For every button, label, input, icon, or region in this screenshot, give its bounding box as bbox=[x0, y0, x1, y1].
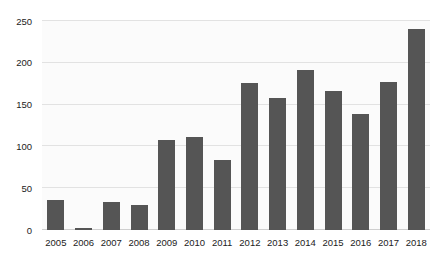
x-slot: 2016 bbox=[347, 232, 375, 250]
bar-slot bbox=[236, 21, 264, 230]
bar-slot bbox=[153, 21, 181, 230]
bar-slot bbox=[42, 21, 70, 230]
x-slot: 2015 bbox=[319, 232, 347, 250]
bar-2005 bbox=[47, 200, 64, 230]
bar-2013 bbox=[269, 98, 286, 230]
bar-2008 bbox=[131, 205, 148, 230]
x-slot: 2006 bbox=[70, 232, 98, 250]
y-axis: 050100150200250 bbox=[0, 21, 38, 230]
x-slot: 2008 bbox=[125, 232, 153, 250]
x-slot: 2005 bbox=[42, 232, 70, 250]
x-slot: 2011 bbox=[208, 232, 236, 250]
bar-slot bbox=[125, 21, 153, 230]
bar-2009 bbox=[158, 140, 175, 230]
x-tick-label: 2010 bbox=[184, 237, 205, 248]
y-tick-label: 100 bbox=[16, 142, 32, 152]
x-slot: 2007 bbox=[97, 232, 125, 250]
x-axis: 2005200620072008200920102011201220132014… bbox=[42, 232, 430, 250]
bar-slot bbox=[264, 21, 292, 230]
bar-2012 bbox=[241, 83, 258, 230]
x-tick-label: 2014 bbox=[295, 237, 316, 248]
bar-slot bbox=[319, 21, 347, 230]
x-tick-label: 2016 bbox=[350, 237, 371, 248]
x-tick-label: 2012 bbox=[239, 237, 260, 248]
bar-2017 bbox=[380, 82, 397, 230]
x-tick-label: 2018 bbox=[406, 237, 427, 248]
y-tick-label: 150 bbox=[16, 100, 32, 110]
x-slot: 2013 bbox=[264, 232, 292, 250]
bar-slot bbox=[208, 21, 236, 230]
x-tick-label: 2013 bbox=[267, 237, 288, 248]
x-slot: 2017 bbox=[375, 232, 403, 250]
bar-2018 bbox=[408, 29, 425, 230]
bar-2010 bbox=[186, 137, 203, 230]
x-slot: 2018 bbox=[402, 232, 430, 250]
bar-slot bbox=[375, 21, 403, 230]
x-tick-label: 2011 bbox=[212, 237, 232, 248]
bar-2016 bbox=[352, 114, 369, 230]
y-tick-label: 250 bbox=[16, 16, 32, 26]
x-tick-label: 2007 bbox=[101, 237, 122, 248]
bar-chart: 050100150200250 200520062007200820092010… bbox=[0, 0, 438, 265]
bar-slot bbox=[291, 21, 319, 230]
bar-slot bbox=[70, 21, 98, 230]
bar-slot bbox=[347, 21, 375, 230]
bar-series bbox=[42, 21, 430, 230]
bar-slot bbox=[97, 21, 125, 230]
bar-2011 bbox=[214, 160, 231, 230]
bar-slot bbox=[181, 21, 209, 230]
x-tick-label: 2006 bbox=[73, 237, 94, 248]
x-slot: 2012 bbox=[236, 232, 264, 250]
x-slot: 2014 bbox=[291, 232, 319, 250]
y-tick-label: 50 bbox=[21, 183, 32, 193]
x-tick-label: 2008 bbox=[128, 237, 149, 248]
x-slot: 2010 bbox=[181, 232, 209, 250]
x-tick-label: 2017 bbox=[378, 237, 399, 248]
x-tick-label: 2015 bbox=[322, 237, 343, 248]
bar-2014 bbox=[297, 70, 314, 231]
bar-2015 bbox=[325, 91, 342, 230]
y-tick-label: 200 bbox=[16, 58, 32, 68]
bar-slot bbox=[402, 21, 430, 230]
x-tick-label: 2005 bbox=[45, 237, 66, 248]
x-tick-label: 2009 bbox=[156, 237, 177, 248]
bar-2006 bbox=[75, 228, 92, 230]
x-slot: 2009 bbox=[153, 232, 181, 250]
bar-2007 bbox=[103, 202, 120, 230]
y-tick-label: 0 bbox=[27, 225, 32, 235]
